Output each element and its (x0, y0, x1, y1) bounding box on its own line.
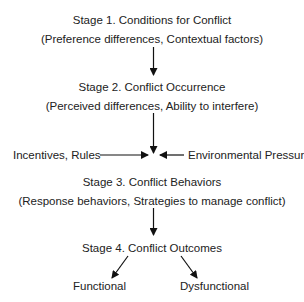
arrow-to-functional (112, 256, 128, 278)
stage1-detail: (Preference differences, Contextual fact… (0, 32, 304, 46)
arrow-to-dysfunctional (181, 256, 197, 278)
stage2-detail: (Perceived differences, Ability to inter… (0, 99, 304, 113)
influence-incentives-rules: Incentives, Rules (13, 148, 101, 162)
stage2-title: Stage 2. Conflict Occurrence (0, 80, 304, 94)
outcome-dysfunctional: Dysfunctional (180, 279, 249, 293)
stage3-title: Stage 3. Conflict Behaviors (0, 175, 304, 189)
stage4-title: Stage 4. Conflict Outcomes (0, 241, 304, 255)
stage3-detail: (Response behaviors, Strategies to manag… (0, 194, 304, 208)
influence-environmental-pressures: Environmental Pressures (188, 148, 304, 162)
stage1-title: Stage 1. Conditions for Conflict (0, 13, 304, 27)
outcome-functional: Functional (73, 279, 126, 293)
